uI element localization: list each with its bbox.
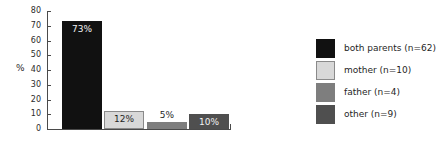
y-axis-tick-label: 20 [25,96,41,104]
legend-swatch [316,83,335,102]
y-axis-tick [47,100,51,101]
y-axis-tick [47,55,51,56]
y-axis-tick [47,41,51,42]
legend-item[interactable]: other (n=9) [316,104,448,126]
y-axis-tick [47,70,51,71]
legend-item-label: both parents (n=62) [344,43,436,54]
y-axis-tick-label: 70 [25,22,41,30]
y-axis-tick-label: 60 [25,37,41,45]
bar [62,21,102,129]
legend-item-label: mother (n=10) [344,65,411,76]
y-axis-tick [47,85,51,86]
legend-item[interactable]: mother (n=10) [316,60,448,82]
x-axis-line [47,129,231,130]
y-axis-tick [47,26,51,27]
legend-item[interactable]: both parents (n=62) [316,38,448,60]
y-axis-tick [47,129,51,130]
y-axis-tick-label: 30 [25,81,41,89]
bar [147,122,187,129]
y-axis-tick-label: 10 [25,110,41,118]
y-axis-tick [47,114,51,115]
legend-swatch [316,61,335,80]
legend-item-label: other (n=9) [344,109,397,120]
bar-chart-figure: % 80706050403020100 73%12%5%10% both par… [0,0,448,147]
x-axis-end-tick [230,124,231,130]
y-axis-tick-label: 0 [25,125,41,133]
y-axis-title: % [16,63,25,73]
plot-area: % 80706050403020100 73%12%5%10% [0,0,240,147]
legend-swatch [316,105,335,124]
legend-item-label: father (n=4) [344,87,400,98]
y-axis-tick-label: 80 [25,7,41,15]
bar-value-label: 73% [62,24,102,34]
y-axis-tick-label: 50 [25,51,41,59]
legend-item[interactable]: father (n=4) [316,82,448,104]
y-axis-tick [47,11,51,12]
bar-value-label: 5% [147,110,187,120]
legend-swatch [316,39,335,58]
y-axis-tick-label: 40 [25,66,41,74]
bar-value-label: 10% [189,117,229,127]
chart-legend: both parents (n=62)mother (n=10)father (… [316,38,448,130]
bar-value-label: 12% [104,114,144,124]
